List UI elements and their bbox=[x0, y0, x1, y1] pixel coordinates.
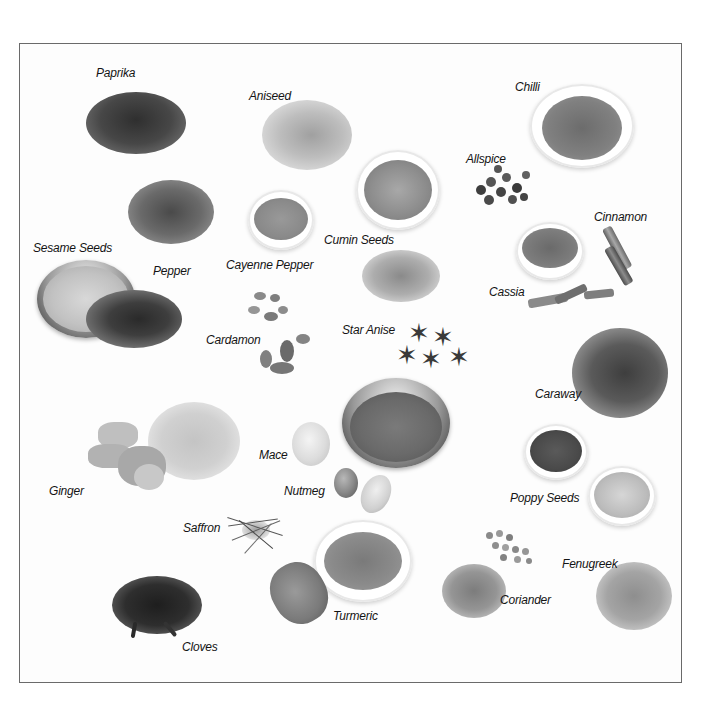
caraway-label: Caraway bbox=[535, 387, 581, 401]
ginger-label: Ginger bbox=[49, 484, 84, 498]
sesame-seeds-label: Sesame Seeds bbox=[33, 241, 112, 255]
chilli-label: Chilli bbox=[515, 80, 540, 94]
aniseed-pile bbox=[262, 100, 352, 172]
nutmeg-label: Nutmeg bbox=[284, 484, 325, 498]
saffron-label: Saffron bbox=[183, 521, 220, 535]
cardamon-pods bbox=[244, 288, 320, 376]
paprika-label: Paprika bbox=[96, 66, 135, 80]
fenugreek-label: Fenugreek bbox=[562, 557, 618, 571]
star-icon: ✶ bbox=[396, 342, 418, 368]
cloves-label: Cloves bbox=[182, 640, 217, 654]
coriander-seeds bbox=[482, 528, 538, 570]
cardamon-label: Cardamon bbox=[206, 333, 260, 347]
coriander-label: Coriander bbox=[500, 593, 551, 607]
fenugreek-pile bbox=[596, 562, 672, 630]
aniseed-label: Aniseed bbox=[249, 89, 291, 103]
coriander-powder bbox=[442, 564, 506, 618]
caraway-pile bbox=[572, 328, 668, 418]
poppy-seeds-bowl-light bbox=[588, 466, 656, 526]
nutmeg-nut bbox=[334, 468, 358, 498]
paprika-pile bbox=[86, 86, 186, 158]
mace-blade-2 bbox=[362, 474, 392, 514]
cassia-bark bbox=[528, 284, 618, 314]
cassia-label: Cassia bbox=[489, 285, 524, 299]
peppercorns-pile bbox=[86, 290, 182, 348]
cumin-seeds-bowl bbox=[356, 150, 440, 230]
ginger-root bbox=[88, 416, 170, 494]
cumin-seeds-label: Cumin Seeds bbox=[324, 233, 394, 247]
turmeric-bowl bbox=[314, 520, 412, 602]
cinnamon-label: Cinnamon bbox=[594, 210, 647, 224]
cumin-seeds-pile bbox=[362, 250, 440, 302]
star-anise-label: Star Anise bbox=[342, 323, 395, 337]
cayenne-pepper-label: Cayenne Pepper bbox=[226, 258, 313, 272]
mace-label: Mace bbox=[259, 448, 288, 462]
star-icon: ✶ bbox=[420, 346, 442, 372]
pepper-label: Pepper bbox=[153, 264, 191, 278]
chilli-bowl bbox=[530, 84, 634, 168]
cassia-bowl bbox=[516, 222, 584, 280]
poppy-seeds-bowl-dark bbox=[524, 424, 588, 480]
pepper-top-pile bbox=[128, 180, 214, 244]
star-icon: ✶ bbox=[448, 344, 470, 370]
allspice-label: Allspice bbox=[466, 152, 506, 166]
turmeric-label: Turmeric bbox=[333, 609, 378, 623]
cloves-pile bbox=[112, 572, 202, 638]
star-anise: ✶ ✶ ✶ ✶ ✶ bbox=[394, 320, 480, 376]
poppy-seeds-label: Poppy Seeds bbox=[510, 491, 579, 505]
large-steel-bowl bbox=[342, 378, 450, 468]
mace-blade bbox=[292, 422, 332, 468]
saffron-threads bbox=[226, 508, 286, 554]
cayenne-pepper-bowl bbox=[248, 190, 314, 250]
allspice-berries bbox=[472, 165, 534, 213]
